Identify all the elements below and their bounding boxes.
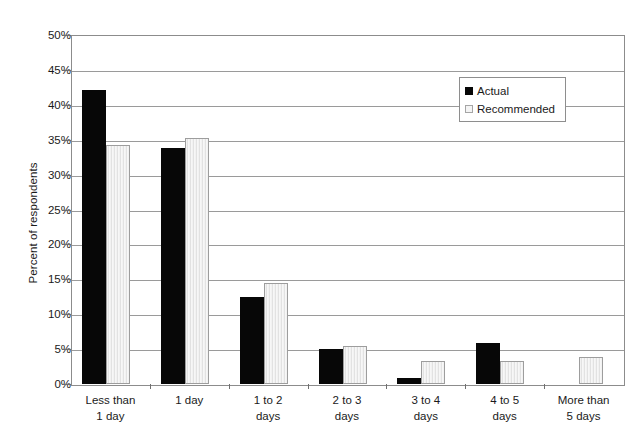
y-axis-tick-group: 0%5%10%15%20%25%30%35%40%45%50% (0, 0, 71, 446)
y-axis-tick-mark (64, 244, 71, 245)
x-axis-tick-label: 3 to 4days (386, 392, 465, 424)
bar-recommended (579, 357, 603, 384)
x-axis-tick-label: 1 day (150, 392, 229, 408)
bar-recommended (343, 346, 367, 384)
y-axis-tick-mark (64, 35, 71, 36)
bar-recommended (185, 138, 209, 384)
bar-recommended (500, 361, 524, 384)
bar-recommended (106, 145, 130, 384)
legend-swatch-actual-icon (465, 87, 473, 95)
y-axis-tick-mark (64, 314, 71, 315)
x-axis-tick-label: Less than1 day (71, 392, 150, 424)
bar-recommended (421, 361, 445, 384)
legend-item-recommended: Recommended (465, 100, 560, 118)
x-axis-tick-group (71, 384, 623, 390)
y-axis-tick-mark (64, 70, 71, 71)
x-axis-label-group: Less than1 day1 day1 to 2days2 to 3days3… (71, 392, 623, 438)
bar-group (71, 35, 150, 384)
legend-label-recommended: Recommended (477, 103, 555, 115)
legend-swatch-recommended-icon (465, 105, 473, 113)
x-axis-tick-mark (386, 384, 387, 389)
x-axis-tick-label: More than5 days (544, 392, 623, 424)
legend-label-actual: Actual (477, 85, 509, 97)
x-axis-tick-mark (465, 384, 466, 389)
bar-group (229, 35, 308, 384)
chart-legend: Actual Recommended (459, 77, 566, 122)
y-axis-tick-mark (64, 175, 71, 176)
x-axis-tick-mark (229, 384, 230, 389)
bar-recommended (264, 283, 288, 384)
x-axis-tick-mark (308, 384, 309, 389)
x-axis-tick-label: 4 to 5days (465, 392, 544, 424)
bar-actual (319, 349, 343, 384)
bar-actual (82, 90, 106, 384)
y-axis-tick-mark (64, 140, 71, 141)
x-axis-tick-mark (544, 384, 545, 389)
bar-group (386, 35, 465, 384)
x-axis-tick-mark (150, 384, 151, 389)
bar-actual (161, 148, 185, 384)
y-axis-tick-mark (64, 279, 71, 280)
bar-group (150, 35, 229, 384)
bar-group (308, 35, 387, 384)
x-axis-tick-label: 1 to 2days (229, 392, 308, 424)
y-axis-tick-mark (64, 384, 71, 385)
y-axis-tick-mark (64, 349, 71, 350)
bar-actual (476, 343, 500, 384)
x-axis-tick-label: 2 to 3days (308, 392, 387, 424)
legend-item-actual: Actual (465, 82, 560, 100)
y-axis-tick-mark (64, 105, 71, 106)
y-axis-tick-mark (64, 210, 71, 211)
bar-actual (240, 297, 264, 384)
bar-chart: Percent of respondents 0%5%10%15%20%25%3… (0, 0, 640, 446)
